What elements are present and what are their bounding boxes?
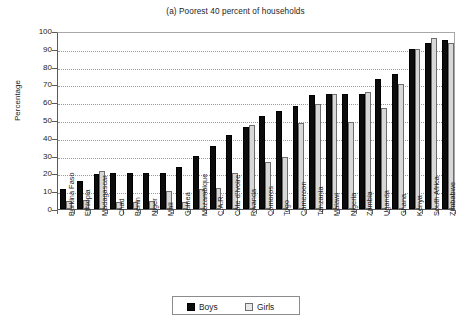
x-axis-category-label: Nigeria [350, 193, 357, 216]
bar-group [127, 33, 139, 209]
y-axis-tick-label: 90 [18, 46, 52, 54]
bar-group [326, 33, 338, 209]
bar-group [276, 33, 288, 209]
x-axis-category-label: Madagascar [101, 175, 108, 216]
legend-label: Girls [257, 302, 274, 312]
legend-entry-girls: Girls [245, 301, 274, 312]
bar-group [143, 33, 155, 209]
x-axis-category-label: Zambia [366, 191, 373, 216]
bar-group [342, 33, 354, 209]
black-square-icon [187, 303, 195, 311]
chart-title: (a) Poorest 40 percent of households [0, 7, 471, 16]
legend-label: Boys [199, 302, 218, 312]
x-axis-category-label: Togo [283, 200, 290, 216]
x-axis-category-label: C.A.R. [217, 194, 224, 216]
bar-group [77, 33, 89, 209]
x-axis-category-label: Guinea [184, 192, 191, 216]
x-axis-category-label: Malawi [333, 193, 340, 216]
x-axis-category-label: Mali [167, 202, 174, 216]
y-axis-tick-label: 40 [18, 135, 52, 143]
bar-group [392, 33, 404, 209]
bar-group [110, 33, 122, 209]
y-axis-tick-label: 70 [18, 81, 52, 89]
x-axis-tick-mark [57, 210, 58, 214]
light-square-icon [245, 303, 253, 311]
x-axis-category-label: Mozambique [201, 174, 208, 216]
x-axis-category-label: Niger [151, 198, 158, 216]
bar-girls [398, 84, 404, 209]
chart-figure: (a) Poorest 40 percent of households Per… [0, 0, 471, 334]
bar-group [409, 33, 421, 209]
x-axis-category-label: Kenya [416, 195, 423, 216]
x-axis-category-label: Burkina Faso [68, 172, 75, 216]
bar-group [176, 33, 188, 209]
y-axis-tick-label: 60 [18, 99, 52, 107]
y-axis-tick-label: 50 [18, 117, 52, 125]
bar-group [243, 33, 255, 209]
legend-entry-boys: Boys [187, 301, 218, 312]
x-axis-category-label: Benin [134, 197, 141, 216]
y-axis-tick-label: 20 [18, 170, 52, 178]
x-axis-category-label: Ghana [400, 194, 407, 216]
bar-group [259, 33, 271, 209]
x-axis-category-label: Comoros [267, 186, 274, 216]
y-axis-tick-label: 10 [18, 188, 52, 196]
bar-girls [332, 94, 338, 209]
x-axis-category-label: South Africa [433, 176, 440, 216]
y-axis-tick-label: 0 [18, 206, 52, 214]
plot-area [57, 32, 455, 210]
x-axis-category-label: Uganda [383, 190, 390, 216]
bar-girls [415, 49, 421, 209]
x-axis-category-label: Tanzania [317, 186, 324, 216]
bar-group [160, 33, 172, 209]
chart-legend: BoysGirls [172, 296, 300, 315]
x-axis-category-label: Zimbabwe [449, 182, 456, 216]
bar-group [309, 33, 321, 209]
y-axis-tick-label: 30 [18, 153, 52, 161]
x-axis-category-label: Côte d'Ivoire [234, 175, 241, 216]
x-axis-category-label: Cameroon [300, 181, 307, 216]
x-axis-category-label: Ethiopia [84, 189, 91, 216]
y-axis-tick-label: 80 [18, 64, 52, 72]
bar-group [375, 33, 387, 209]
x-axis-category-label: Chad [118, 198, 125, 216]
y-axis-tick-label: 100 [18, 28, 52, 36]
x-axis-category-label: Rwanda [250, 189, 257, 216]
bar-group [359, 33, 371, 209]
bar-group [210, 33, 222, 209]
